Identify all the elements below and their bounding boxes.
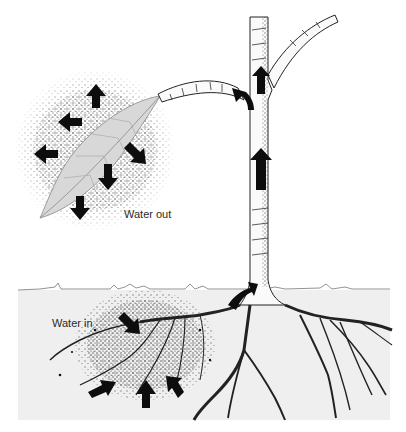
water-in-label: Water in xyxy=(52,318,93,329)
ground-line xyxy=(18,283,390,290)
water-out-label: Water out xyxy=(124,209,171,220)
leaf-branch xyxy=(158,81,244,102)
diagram-canvas xyxy=(0,0,406,432)
upper-branch xyxy=(268,15,338,88)
transpiration-diagram: Water out Water in xyxy=(0,0,406,432)
